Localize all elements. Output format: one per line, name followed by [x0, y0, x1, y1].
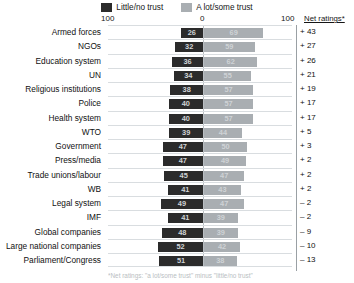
bar-little-no-trust: 38: [170, 85, 203, 95]
bar-track: 4947: [108, 196, 292, 210]
bar-value-label: 62: [227, 58, 235, 66]
bar-a-lot-some-trust: 42: [204, 242, 240, 252]
category-label: Education system: [0, 54, 104, 68]
chart-row: WTO3944+ 5: [0, 125, 354, 139]
legend-item-a-lot-some-trust: A lot/some trust: [181, 3, 252, 12]
bar-value-label: 50: [221, 143, 229, 151]
bar-little-no-trust: 26: [181, 28, 203, 38]
bar-little-no-trust: 41: [168, 185, 203, 195]
bar-track: 3259: [108, 39, 292, 53]
bar-a-lot-some-trust: 49: [204, 156, 246, 166]
bar-value-label: 48: [178, 229, 186, 237]
bar-track: 3662: [108, 54, 292, 68]
chart-row: NGOs3259+ 27: [0, 39, 354, 53]
bar-a-lot-some-trust: 47: [204, 199, 244, 209]
chart-legend: Little/no trust A lot/some trust: [0, 1, 354, 13]
category-label: Health system: [0, 111, 104, 125]
bar-value-label: 69: [230, 29, 238, 37]
chart-plot-area: Armed forces2669+ 43NGOs3259+ 27Educatio…: [0, 25, 354, 271]
bar-track: 2669: [108, 25, 292, 39]
bar-value-label: 49: [178, 200, 186, 208]
chart-row: Trade unions/labour4547+ 2: [0, 168, 354, 182]
bar-little-no-trust: 48: [162, 228, 203, 238]
bar-value-label: 41: [181, 186, 189, 194]
bar-little-no-trust: 41: [168, 213, 203, 223]
bar-value-label: 45: [180, 172, 188, 180]
bar-little-no-trust: 47: [163, 142, 203, 152]
bar-value-label: 44: [219, 129, 227, 137]
bar-value-label: 38: [183, 86, 191, 94]
bar-track: 4057: [108, 111, 292, 125]
chart-row: Religious institutions3857+ 19: [0, 82, 354, 96]
bar-value-label: 57: [224, 100, 232, 108]
bar-little-no-trust: 40: [169, 114, 203, 124]
bar-track: 4143: [108, 182, 292, 196]
bar-value-label: 52: [177, 243, 185, 251]
category-label: Police: [0, 96, 104, 110]
net-rating-value: + 43: [300, 25, 316, 39]
bar-value-label: 39: [217, 214, 225, 222]
net-ratings-header: Net ratings*: [304, 14, 345, 24]
bar-value-label: 39: [217, 229, 225, 237]
net-rating-value: – 13: [300, 253, 316, 267]
bar-little-no-trust: 51: [159, 256, 203, 266]
bar-track: 3455: [108, 68, 292, 82]
net-rating-value: + 2: [300, 153, 311, 167]
bar-track: 5242: [108, 239, 292, 253]
bar-value-label: 43: [218, 186, 226, 194]
bar-a-lot-some-trust: 59: [204, 42, 255, 52]
bar-value-label: 34: [184, 72, 192, 80]
net-rating-value: – 2: [300, 210, 311, 224]
chart-row: WB4143+ 2: [0, 182, 354, 196]
category-label: Religious institutions: [0, 82, 104, 96]
chart-row: Press/media4749+ 2: [0, 153, 354, 167]
category-label: Parliament/Congress: [0, 253, 104, 267]
bar-a-lot-some-trust: 57: [204, 99, 253, 109]
bar-a-lot-some-trust: 44: [204, 128, 242, 138]
bar-value-label: 57: [224, 86, 232, 94]
bar-value-label: 32: [185, 43, 193, 51]
category-label: Global companies: [0, 225, 104, 239]
bar-value-label: 40: [182, 100, 190, 108]
net-rating-value: – 10: [300, 239, 316, 253]
net-rating-value: + 3: [300, 139, 311, 153]
bar-track: 4749: [108, 153, 292, 167]
bar-value-label: 49: [221, 157, 229, 165]
category-label: IMF: [0, 210, 104, 224]
category-label: Press/media: [0, 153, 104, 167]
legend-item-little-no-trust: Little/no trust: [101, 3, 163, 12]
bar-value-label: 40: [182, 115, 190, 123]
net-rating-value: + 17: [300, 111, 316, 125]
net-rating-value: + 2: [300, 168, 311, 182]
bar-track: 4839: [108, 225, 292, 239]
bar-little-no-trust: 49: [161, 199, 203, 209]
legend-label-little-no-trust: Little/no trust: [116, 3, 163, 12]
x-axis-ticks: 100 0 100: [0, 14, 354, 25]
bar-little-no-trust: 34: [174, 71, 203, 81]
bar-track: 3944: [108, 125, 292, 139]
legend-swatch-light: [181, 3, 192, 12]
bar-value-label: 59: [225, 43, 233, 51]
bar-a-lot-some-trust: 57: [204, 114, 253, 124]
chart-row: IMF4139– 2: [0, 210, 354, 224]
axis-tick-zero: 0: [200, 14, 204, 24]
axis-tick-left-100: 100: [101, 14, 114, 24]
bar-little-no-trust: 32: [175, 42, 203, 52]
net-rating-value: + 2: [300, 182, 311, 196]
bar-a-lot-some-trust: 57: [204, 85, 253, 95]
bar-a-lot-some-trust: 55: [204, 71, 251, 81]
bar-little-no-trust: 52: [158, 242, 203, 252]
bar-a-lot-some-trust: 43: [204, 185, 241, 195]
bar-a-lot-some-trust: 38: [204, 256, 237, 266]
bar-value-label: 42: [218, 243, 226, 251]
category-label: NGOs: [0, 39, 104, 53]
bar-a-lot-some-trust: 62: [204, 57, 257, 67]
bar-a-lot-some-trust: 69: [204, 28, 263, 38]
net-rating-value: + 26: [300, 54, 316, 68]
category-label: Trade unions/labour: [0, 168, 104, 182]
chart-row: Global companies4839– 9: [0, 225, 354, 239]
bar-value-label: 39: [182, 129, 190, 137]
bar-value-label: 38: [216, 257, 224, 265]
axis-tick-right-100: 100: [281, 14, 294, 24]
category-label: Armed forces: [0, 25, 104, 39]
